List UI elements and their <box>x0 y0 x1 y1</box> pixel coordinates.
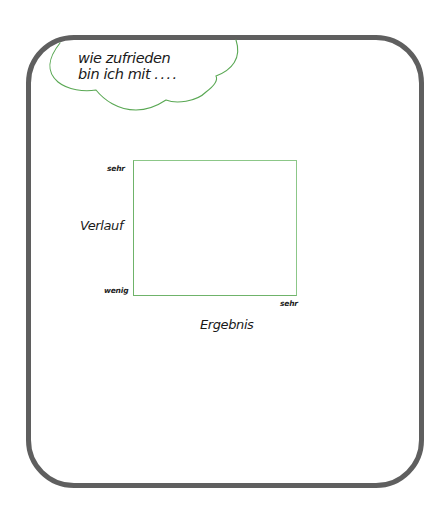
rating-plot-area[interactable] <box>133 160 297 296</box>
cloud-ellipsis: .... <box>154 66 178 82</box>
x-axis-title: Ergebnis <box>200 317 254 332</box>
y-axis-top-label: sehr <box>107 164 125 173</box>
worksheet-page: wie zufrieden bin ich mit.... sehr wenig… <box>0 0 448 513</box>
x-axis-right-label: sehr <box>280 299 298 308</box>
cloud-question: wie zufrieden bin ich mit.... <box>78 50 179 82</box>
cloud-line-1: wie zufrieden <box>78 50 179 66</box>
y-axis-bottom-label: wenig <box>104 286 128 295</box>
cloud-line-2: bin ich mit <box>78 66 150 82</box>
y-axis-title: Verlauf <box>80 218 123 233</box>
